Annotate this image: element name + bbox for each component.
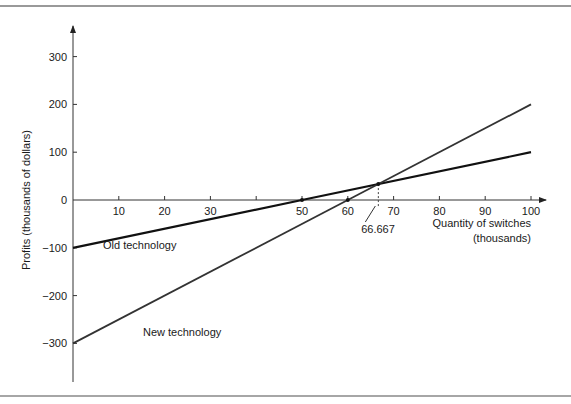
x-tick-label: 20 [158, 205, 170, 217]
x-tick-label: 30 [204, 205, 216, 217]
x-tick-label: 60 [342, 205, 354, 217]
x-axis-label-line2: (thousands) [473, 232, 531, 244]
y-tick-label: 0 [61, 194, 67, 206]
data-point [376, 182, 380, 186]
y-tick-label: −200 [42, 290, 67, 302]
y-tick-label: 300 [49, 51, 67, 63]
x-tick-label: 90 [479, 205, 491, 217]
annotation-leader [365, 206, 375, 222]
y-axis-label: Profits (thousands of dollars) [20, 130, 32, 270]
x-tick-label: 10 [113, 205, 125, 217]
y-tick-label: −300 [42, 337, 67, 349]
x-tick-label: 100 [522, 205, 540, 217]
y-tick-label: 200 [49, 98, 67, 110]
chart: 3002001000−100−200−300 10203050607080901… [0, 0, 571, 404]
data-point [346, 198, 350, 202]
x-tick-label: 50 [296, 205, 308, 217]
x-tick-label: 80 [433, 205, 445, 217]
y-tick-label: 100 [49, 146, 67, 158]
y-tick-label: −100 [42, 242, 67, 254]
y-ticks: 3002001000−100−200−300 [42, 51, 77, 350]
new-technology-label: New technology [143, 326, 222, 338]
x-tick-label: 70 [387, 205, 399, 217]
data-point [300, 198, 304, 202]
old-technology-label: Old technology [103, 239, 177, 251]
intersection-value-label: 66.667 [361, 223, 395, 235]
x-axis-label-line1: Quantity of switches [433, 217, 532, 229]
x-ticks: 1020305060708090100 [113, 196, 541, 217]
